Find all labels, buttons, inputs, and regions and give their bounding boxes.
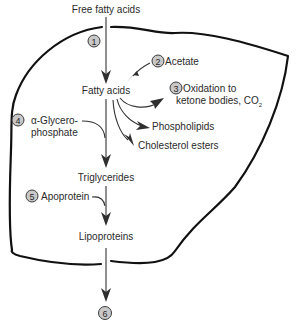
arrowhead-icon	[150, 98, 164, 109]
svg-text:5: 5	[29, 192, 34, 202]
arrow-fatty-acids-to-cholesterol-esters	[113, 100, 128, 140]
step-badge-6: 6	[99, 307, 112, 320]
arrowhead-icon	[136, 121, 150, 130]
step-badge-3: 3	[170, 82, 182, 94]
step-badge-1: 1	[88, 35, 100, 47]
oxidation-label-line1: Oxidation to	[183, 83, 237, 94]
step-badge-5: 5	[26, 190, 38, 202]
svg-text:4: 4	[15, 116, 20, 126]
glycerophosphate-label-line2: phosphate	[31, 127, 78, 138]
step-badge-2: 2	[152, 55, 164, 67]
svg-text:6: 6	[102, 309, 107, 319]
svg-text:1: 1	[91, 37, 96, 47]
lipoproteins-label: Lipoproteins	[79, 231, 133, 242]
svg-text:2: 2	[155, 57, 160, 67]
cholesterol-esters-label: Cholesterol esters	[138, 140, 219, 151]
apoprotein-label: Apoprotein	[41, 191, 89, 202]
triglycerides-label: Triglycerides	[78, 172, 134, 183]
arrow-apoprotein-to-lipoproteins	[92, 197, 105, 206]
oxidation-label-line2: ketone bodies, CO2	[176, 95, 263, 108]
liver-outline-bottom	[12, 250, 101, 265]
acetate-label: Acetate	[165, 56, 199, 67]
liver-outline-top-left	[10, 27, 102, 250]
arrowhead-icon	[127, 71, 139, 82]
svg-text:3: 3	[173, 84, 178, 94]
arrow-glycerophosphate-to-triglycerides	[82, 121, 105, 138]
free-fatty-acids-label: Free fatty acids	[72, 4, 140, 15]
fatty-acids-label: Fatty acids	[82, 85, 130, 96]
liver-fatty-acid-diagram: Free fatty acids 1 2 Acetate Fatty acids…	[0, 0, 297, 331]
step-badge-4: 4	[12, 114, 24, 126]
glycerophosphate-label-line1: α-Glycero-	[31, 115, 78, 126]
phospholipids-label: Phospholipids	[152, 121, 214, 132]
arrowhead-icon	[124, 133, 134, 146]
